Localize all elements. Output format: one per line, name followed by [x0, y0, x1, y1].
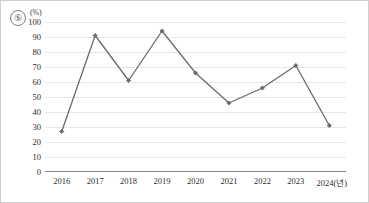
x-tick-label: 2021 — [220, 176, 237, 186]
x-tick-label: 2019 — [154, 176, 171, 186]
plot-area: 0102030405060708090100 20162017201820192… — [45, 22, 346, 172]
series-line — [62, 31, 330, 132]
x-tick-label: 2023 — [287, 176, 304, 186]
y-tick-label: 60 — [1, 77, 41, 87]
line-series-svg — [45, 22, 346, 172]
x-tick-label: 2024(년) — [316, 176, 347, 188]
y-tick-label: 90 — [1, 32, 41, 42]
chart-figure: ⑤ (%) 0102030405060708090100 20162017201… — [0, 0, 369, 203]
y-tick-label: 70 — [1, 62, 41, 72]
y-axis-unit-label: (%) — [30, 8, 41, 17]
y-tick-label: 50 — [1, 92, 41, 102]
x-tick-label: 2018 — [120, 176, 137, 186]
x-tick-label: 2017 — [87, 176, 104, 186]
y-tick-label: 10 — [1, 152, 41, 162]
y-tick-label: 80 — [1, 47, 41, 57]
y-tick-label: 20 — [1, 137, 41, 147]
y-tick-label: 0 — [1, 167, 41, 177]
x-tick-label: 2020 — [187, 176, 204, 186]
y-tick-label: 100 — [1, 17, 41, 27]
y-tick-label: 40 — [1, 107, 41, 117]
x-tick-label: 2016 — [53, 176, 70, 186]
data-point-marker — [60, 129, 64, 133]
y-tick-label: 30 — [1, 122, 41, 132]
x-tick-label: 2022 — [254, 176, 271, 186]
